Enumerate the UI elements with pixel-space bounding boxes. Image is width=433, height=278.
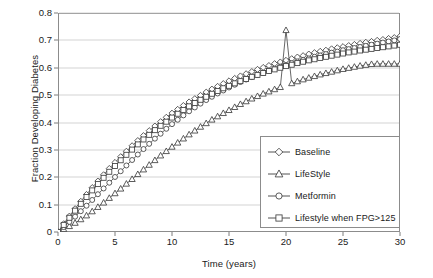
x-tick-label: 15 (209, 236, 249, 247)
x-axis-tick-labels: 051015202530 (58, 236, 418, 252)
square-marker-icon (266, 211, 292, 225)
x-tick-label: 30 (380, 236, 420, 247)
x-tick-label: 0 (38, 236, 78, 247)
legend-label: Baseline (292, 147, 330, 157)
x-axis-title: Time (years) (58, 258, 400, 269)
y-tick-label: 0.1 (6, 199, 52, 210)
x-tick-label: 10 (152, 236, 192, 247)
legend-label: Metformin (292, 191, 336, 201)
legend-item[interactable]: LifeStyle (261, 163, 399, 185)
y-tick-label: 0.6 (6, 62, 52, 73)
y-tick-label: 0.4 (6, 117, 52, 128)
x-tick-label: 20 (266, 236, 306, 247)
triangle-marker-icon (266, 167, 292, 181)
y-tick-label: 0.2 (6, 171, 52, 182)
y-tick-label: 0.5 (6, 89, 52, 100)
x-tick-label: 25 (323, 236, 363, 247)
x-tick-label: 5 (95, 236, 135, 247)
y-tick-label: 0.3 (6, 144, 52, 155)
legend-item[interactable]: Baseline (261, 141, 399, 163)
legend-item[interactable]: Metformin (261, 185, 399, 207)
y-axis-tick-labels: 00.10.20.30.40.50.60.70.8 (0, 13, 52, 232)
legend-item[interactable]: Lifestyle when FPG>125 (261, 207, 399, 229)
y-tick-label: 0.8 (6, 7, 52, 18)
circle-marker-icon (266, 189, 292, 203)
legend-label: Lifestyle when FPG>125 (292, 213, 396, 223)
chart-figure: Fraction Developing Diabetes Time (years… (0, 0, 433, 278)
legend-label: LifeStyle (292, 169, 330, 179)
y-tick-label: 0.7 (6, 34, 52, 45)
diamond-marker-icon (266, 145, 292, 159)
chart-legend: BaselineLifeStyleMetforminLifestyle when… (260, 136, 400, 228)
